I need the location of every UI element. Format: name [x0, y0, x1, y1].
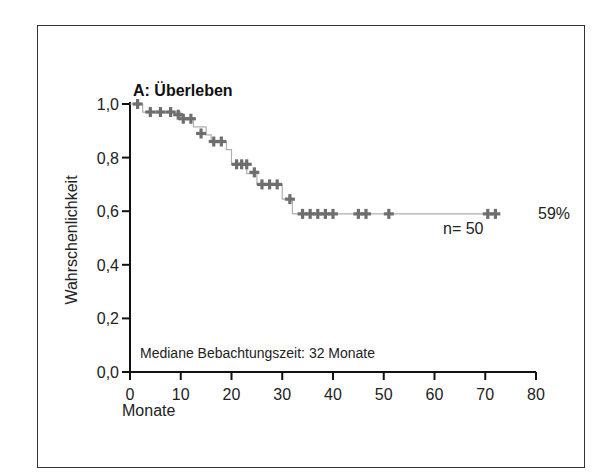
y-tick-label: 0,0 [97, 364, 119, 381]
censor-mark-icon [285, 194, 295, 204]
x-axis-label: Monate [122, 402, 175, 419]
survival-chart: A: Überleben 010203040506070800,00,20,40… [0, 0, 613, 474]
x-tick-label: 60 [426, 386, 444, 403]
y-tick-label: 0,4 [97, 257, 119, 274]
y-tick-label: 1,0 [97, 96, 119, 113]
y-tick-label: 0,2 [97, 310, 119, 327]
censor-markers [133, 99, 501, 219]
censor-mark-icon [249, 167, 259, 177]
censor-mark-icon [133, 99, 143, 109]
y-tick-label: 0,6 [97, 203, 119, 220]
censor-mark-icon [196, 128, 206, 138]
y-axis-label: Wahrschenlichkeit [63, 175, 80, 305]
censor-mark-icon [186, 114, 196, 124]
x-tick-label: 70 [476, 386, 494, 403]
censor-mark-icon [490, 209, 500, 219]
median-followup-note: Mediane Bebachtungszeit: 32 Monate [140, 345, 375, 361]
censor-mark-icon [384, 209, 394, 219]
y-tick-label: 0,8 [97, 150, 119, 167]
x-tick-label: 50 [375, 386, 393, 403]
censor-mark-icon [272, 179, 282, 189]
x-tick-label: 40 [324, 386, 342, 403]
censor-mark-icon [361, 209, 371, 219]
x-tick-label: 80 [527, 386, 545, 403]
censor-mark-icon [145, 107, 155, 117]
x-tick-label: 30 [273, 386, 291, 403]
censor-mark-icon [328, 209, 338, 219]
x-tick-label: 0 [126, 386, 135, 403]
censor-mark-icon [155, 107, 165, 117]
x-tick-label: 20 [223, 386, 241, 403]
chart-title: A: Überleben [133, 81, 233, 99]
sample-size-label: n= 50 [443, 220, 484, 237]
censor-mark-icon [216, 137, 226, 147]
x-tick-label: 10 [172, 386, 190, 403]
final-percentage-label: 59% [538, 205, 570, 222]
